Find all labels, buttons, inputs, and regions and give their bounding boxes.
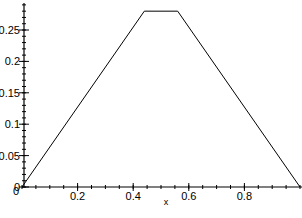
x-tick-label: 0.2 — [70, 190, 85, 202]
y-tick-label: 0.25 — [0, 24, 20, 36]
axis-labels: 00.050.10.150.20.250.20.40.60.80x — [0, 24, 252, 207]
y-tick-label: 0.15 — [0, 87, 20, 99]
y-tick-label: 0.1 — [5, 118, 20, 130]
series-line — [22, 11, 300, 187]
x-tick-label: 0.8 — [237, 190, 252, 202]
x-tick-label: 0.4 — [126, 190, 141, 202]
y-tick-label: 0.05 — [0, 150, 20, 162]
chart: 00.050.10.150.20.250.20.40.60.80x — [0, 0, 302, 218]
x-tick-label: 0.6 — [181, 190, 196, 202]
origin-label: 0 — [13, 185, 19, 197]
axes — [19, 3, 302, 191]
y-tick-label: 0.2 — [5, 55, 20, 67]
plot-line — [22, 11, 300, 187]
x-axis-label: x — [164, 197, 169, 207]
